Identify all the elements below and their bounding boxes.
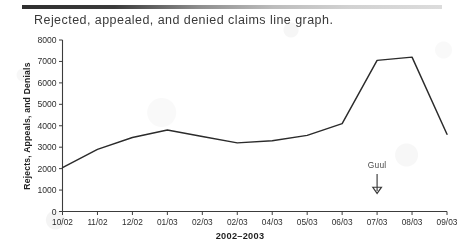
y-tick-label: 2000 bbox=[37, 164, 56, 174]
y-tick-label: 3000 bbox=[37, 142, 56, 152]
goal-annotation: Guul bbox=[368, 160, 387, 193]
x-tick-label: 05/03 bbox=[297, 217, 318, 227]
y-axis-title: Rejects, Appeals, and Denials bbox=[22, 62, 32, 189]
x-tick-label: 07/03 bbox=[367, 217, 388, 227]
x-axis-tick-labels: 10/0211/0212/0201/0302/0302/0304/0305/03… bbox=[52, 217, 458, 227]
y-axis-tick-labels: 010002000300040005000600070008000 bbox=[37, 35, 56, 217]
chart-svg: 010002000300040005000600070008000 10/021… bbox=[0, 0, 462, 250]
x-tick-label: 04/03 bbox=[262, 217, 283, 227]
x-tick-label: 06/03 bbox=[332, 217, 353, 227]
y-tick-label: 5000 bbox=[37, 99, 56, 109]
x-tick-label: 02/03 bbox=[227, 217, 248, 227]
y-tick-label: 8000 bbox=[37, 35, 56, 45]
x-tick-label: 02/03 bbox=[192, 217, 213, 227]
data-series-line bbox=[63, 57, 448, 167]
y-tick-label: 4000 bbox=[37, 121, 56, 131]
y-tick-label: 7000 bbox=[37, 56, 56, 66]
x-tick-label: 01/03 bbox=[157, 217, 178, 227]
x-tick-label: 09/03 bbox=[437, 217, 458, 227]
line-chart: 010002000300040005000600070008000 10/021… bbox=[0, 0, 462, 250]
y-tick-label: 6000 bbox=[37, 78, 56, 88]
x-axis-title: 2002–2003 bbox=[216, 231, 265, 241]
x-tick-label: 10/02 bbox=[52, 217, 73, 227]
y-tick-label: 0 bbox=[52, 207, 57, 217]
annotation-label: Guul bbox=[368, 160, 387, 170]
x-tick-label: 11/02 bbox=[87, 217, 108, 227]
y-tick-label: 1000 bbox=[37, 185, 56, 195]
x-tick-label: 08/03 bbox=[402, 217, 423, 227]
x-tick-label: 12/02 bbox=[122, 217, 143, 227]
down-arrow-icon bbox=[373, 174, 382, 193]
